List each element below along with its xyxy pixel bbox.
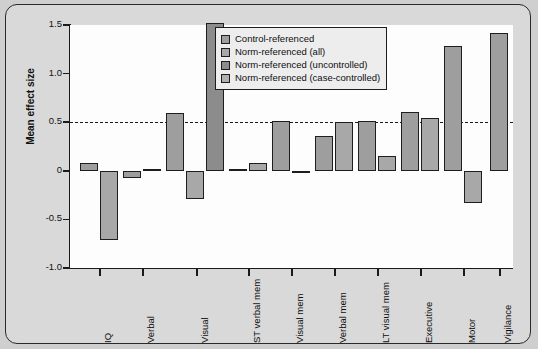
legend-label: Control-referenced <box>235 34 314 44</box>
x-tick-label: Vigilance <box>503 305 513 343</box>
legend-item[interactable]: Norm-referenced (all) <box>221 46 380 58</box>
legend-label: Norm-referenced (all) <box>235 47 325 57</box>
legend-item[interactable]: Control-referenced <box>221 33 380 45</box>
legend-swatch-icon <box>221 61 230 70</box>
x-tick-label: ST verbal mem <box>252 279 262 343</box>
y-axis-title: Mean effect size <box>25 37 36 177</box>
chart-legend: Control-referencedNorm-referenced (all)N… <box>215 27 387 90</box>
x-tick-mark <box>499 269 501 276</box>
y-tick-label: -0.5 <box>28 213 62 223</box>
x-tick-mark <box>334 269 336 276</box>
bar <box>292 171 310 173</box>
legend-label: Norm-referenced (uncontrolled) <box>235 60 368 70</box>
y-tick: 1.5 <box>24 19 62 31</box>
x-tick-mark <box>377 269 379 276</box>
bar <box>335 122 353 171</box>
x-tick-label: LT visual mem <box>381 282 391 343</box>
bar <box>80 163 98 171</box>
bar <box>186 171 204 199</box>
bar <box>249 163 267 171</box>
legend-label: Norm-referenced (case-controlled) <box>235 73 380 83</box>
bar <box>123 171 141 178</box>
bar <box>444 46 462 170</box>
x-tick-label: Verbal mem <box>338 292 348 343</box>
x-tick-label: Visual mem <box>295 294 305 343</box>
y-tick: -1.0 <box>24 262 62 274</box>
y-tick: 1.0 <box>24 68 62 80</box>
x-tick-label: Verbal <box>146 316 156 343</box>
bar <box>378 156 396 171</box>
bar <box>229 169 247 171</box>
x-tick-mark <box>99 269 101 276</box>
y-tick-label: 1.0 <box>28 68 62 78</box>
bar <box>464 171 482 203</box>
x-tick-mark <box>291 269 293 276</box>
x-tick-mark <box>196 269 198 276</box>
bar <box>143 169 161 171</box>
x-tick-label: Executive <box>424 302 434 343</box>
bar <box>358 121 376 171</box>
legend-swatch-icon <box>221 74 230 83</box>
legend-swatch-icon <box>221 35 230 44</box>
legend-item[interactable]: Norm-referenced (case-controlled) <box>221 72 380 84</box>
y-tick-label: 0.5 <box>28 116 62 126</box>
legend-swatch-icon <box>221 48 230 57</box>
figure-frame: Mean effect size 1.51.00.50-0.5-1.0 IQVe… <box>5 4 531 344</box>
bar <box>401 112 419 171</box>
bar <box>100 171 118 240</box>
y-tick-label: 1.5 <box>28 19 62 29</box>
y-tick-label: -1.0 <box>28 262 62 272</box>
x-tick-label: IQ <box>103 333 113 343</box>
legend-item[interactable]: Norm-referenced (uncontrolled) <box>221 59 380 71</box>
x-tick-mark <box>463 269 465 276</box>
bar <box>272 121 290 171</box>
x-tick-label: Motor <box>467 319 477 343</box>
bar <box>315 136 333 171</box>
y-tick: -0.5 <box>24 213 62 225</box>
bar <box>490 33 508 171</box>
x-tick-mark <box>420 269 422 276</box>
y-tick-label: 0 <box>28 165 62 175</box>
x-tick-label: Visual <box>200 317 210 343</box>
y-tick: 0.5 <box>24 116 62 128</box>
x-tick-mark <box>248 269 250 276</box>
x-tick-mark <box>142 269 144 276</box>
y-tick: 0 <box>24 165 62 177</box>
bar <box>421 118 439 170</box>
bar <box>166 113 184 170</box>
